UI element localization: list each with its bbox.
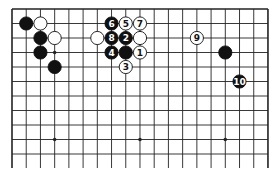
white-stone: 1 bbox=[133, 46, 146, 59]
star-point bbox=[53, 51, 57, 55]
move-number: 1 bbox=[137, 48, 143, 58]
move-number: 8 bbox=[108, 33, 114, 43]
move-number: 6 bbox=[108, 19, 114, 29]
move-number: 9 bbox=[194, 33, 200, 43]
black-stone bbox=[48, 60, 61, 73]
move-number: 3 bbox=[123, 62, 129, 72]
move-number: 5 bbox=[123, 19, 129, 29]
black-stone bbox=[20, 17, 33, 30]
star-point bbox=[138, 138, 142, 142]
white-stone: 7 bbox=[133, 17, 146, 30]
white-stone: 3 bbox=[119, 60, 132, 73]
white-stone bbox=[133, 31, 146, 44]
black-stone: 6 bbox=[105, 17, 118, 30]
black-stone: 8 bbox=[105, 31, 118, 44]
white-stone bbox=[34, 17, 47, 30]
move-number: 2 bbox=[123, 33, 129, 43]
move-number: 10 bbox=[233, 77, 246, 87]
white-stone bbox=[48, 31, 61, 44]
move-number: 4 bbox=[108, 48, 114, 58]
black-stone: 10 bbox=[233, 75, 246, 88]
black-stone bbox=[34, 31, 47, 44]
black-stone bbox=[34, 46, 47, 59]
star-point bbox=[53, 138, 57, 142]
black-stone bbox=[219, 46, 232, 59]
star-point bbox=[224, 138, 228, 142]
white-stone bbox=[91, 31, 104, 44]
white-stone: 5 bbox=[119, 17, 132, 30]
move-number: 7 bbox=[137, 19, 143, 29]
black-stone: 2 bbox=[119, 31, 132, 44]
black-stone bbox=[119, 46, 132, 59]
white-stone: 9 bbox=[190, 31, 203, 44]
black-stone: 4 bbox=[105, 46, 118, 59]
go-board: 65782413910 bbox=[0, 0, 278, 177]
